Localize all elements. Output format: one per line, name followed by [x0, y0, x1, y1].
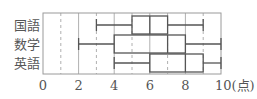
x-tick-label: 10(点) [215, 78, 255, 93]
x-tick-label: 2 [74, 78, 82, 93]
x-tick-label: 4 [110, 78, 118, 93]
x-tick-label: 6 [146, 78, 154, 93]
category-label: 英語 [14, 56, 40, 71]
category-labels: 国語数学英語 [14, 18, 40, 71]
x-tick-label: 8 [181, 78, 189, 93]
iqr-box [150, 54, 203, 72]
category-label: 国語 [14, 18, 40, 33]
x-axis-tick-labels: 0246810(点) [39, 78, 255, 93]
box-0 [96, 16, 203, 34]
category-label: 数学 [14, 37, 40, 52]
boxplot-chart: 国語数学英語 0246810(点) [0, 0, 257, 99]
x-tick-label: 0 [39, 78, 47, 93]
